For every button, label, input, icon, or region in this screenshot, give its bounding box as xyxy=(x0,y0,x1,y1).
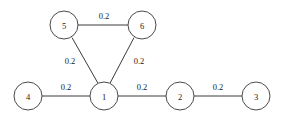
graph-canvas: 5 6 4 1 2 3 0.2 0.2 0.2 0.2 0.2 0.2 xyxy=(0,0,284,121)
edge-6-1-weight: 0.2 xyxy=(134,56,145,66)
edge-5-1 xyxy=(72,38,98,84)
node-1-label: 1 xyxy=(102,92,106,102)
node-3-label: 3 xyxy=(254,92,258,102)
edge-1-2-weight: 0.2 xyxy=(137,82,148,92)
graph-figure: 5 6 4 1 2 3 0.2 0.2 0.2 0.2 0.2 0.2 xyxy=(0,0,284,121)
edge-5-1-weight: 0.2 xyxy=(65,56,76,66)
edge-2-3-weight: 0.2 xyxy=(213,82,224,92)
node-5-label: 5 xyxy=(62,21,66,31)
edge-5-6-weight: 0.2 xyxy=(99,11,110,21)
edge-4-1-weight: 0.2 xyxy=(61,82,72,92)
edge-6-1 xyxy=(110,38,134,84)
node-2-label: 2 xyxy=(178,92,182,102)
node-6-label: 6 xyxy=(140,21,144,31)
